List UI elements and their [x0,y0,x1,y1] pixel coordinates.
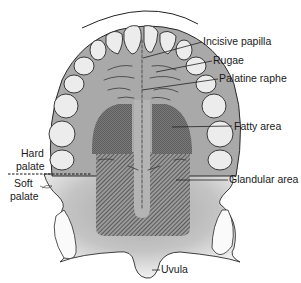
tooth [176,40,192,60]
label-rugae: Rugae [213,54,244,66]
lip-arc [82,11,198,28]
tooth [50,150,74,170]
label-uvula: Uvula [161,263,188,275]
label-glandular-area: Glandular area [229,173,299,185]
tooth [64,75,84,93]
tooth [208,150,232,170]
label-incisive-papilla: Incisive papilla [203,35,271,47]
label-palatine-raphe: Palatine raphe [219,72,287,84]
tooth [207,121,233,147]
tooth [202,94,226,118]
tooth [186,57,206,75]
label-fatty-area: Fatty area [234,120,281,132]
tooth [54,94,78,118]
label-hard-palate-1: Hard [21,147,44,159]
tooth [196,75,216,93]
label-soft-palate-1: Soft [14,177,33,189]
label-soft-palate-2: palate [10,190,39,202]
palate-diagram: Incisive papilla Rugae Palatine raphe Fa… [0,0,301,283]
tooth [90,40,106,60]
tooth [49,121,75,147]
tooth [74,57,94,75]
label-hard-palate-2: palate [16,160,45,172]
